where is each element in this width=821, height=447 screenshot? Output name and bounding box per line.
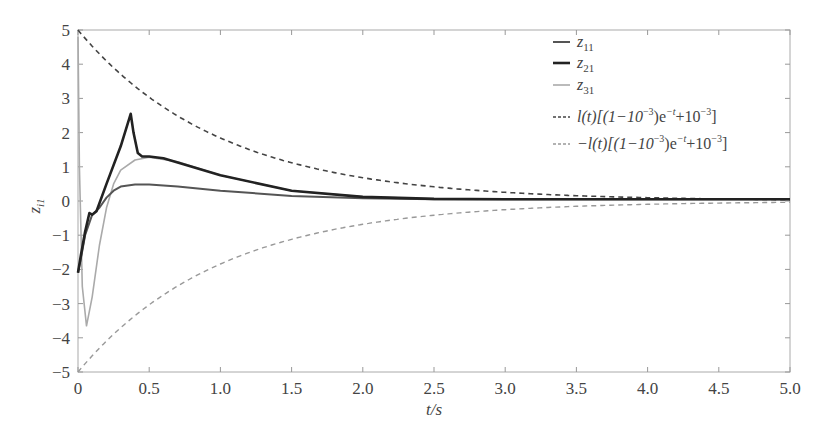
series-line-2 [78, 37, 790, 326]
chart: 00.51.01.52.02.53.03.54.04.55.0 543210−1… [0, 0, 821, 447]
y-tick-label: −1 [52, 226, 70, 245]
y-tick-label: 5 [62, 21, 71, 40]
x-tick-label: 0.5 [139, 379, 160, 398]
x-tick-label: 3.0 [495, 379, 516, 398]
x-tick-label: 5.0 [779, 379, 800, 398]
legend-label: l(t)[(1−10−3)e−t+10−3] [577, 106, 717, 126]
plot-frame [78, 30, 790, 372]
y-tick-label: 2 [62, 124, 71, 143]
y-tick-label: −4 [52, 329, 71, 348]
series-layer [78, 30, 790, 372]
svg-text:zi1: zi1 [25, 198, 46, 214]
x-tick-label: 2.5 [423, 379, 444, 398]
x-tick-label: 1.5 [281, 379, 302, 398]
x-tick-label: 2.0 [352, 379, 373, 398]
legend: z11z21z31l(t)[(1−10−3)e−t+10−3]−l(t)[(1−… [553, 33, 727, 153]
y-axis-ticks: 543210−1−2−3−4−5 [52, 21, 790, 382]
legend-label: z31 [576, 76, 594, 96]
legend-label: −l(t)[(1−10−3)e−t+10−3] [577, 133, 727, 153]
x-tick-label: 4.5 [708, 379, 729, 398]
y-axis-title: zi1 [25, 198, 46, 214]
x-axis-ticks: 00.51.01.52.02.53.03.54.04.55.0 [74, 30, 801, 398]
x-tick-label: 1.0 [210, 379, 231, 398]
y-tick-label: 1 [62, 158, 71, 177]
legend-label: z11 [576, 33, 594, 53]
y-tick-label: 0 [62, 192, 71, 211]
legend-label: z21 [576, 54, 594, 74]
y-tick-label: −5 [52, 363, 70, 382]
y-tick-label: −2 [52, 260, 70, 279]
x-axis-title: t/s [426, 400, 442, 419]
series-line-4 [78, 202, 790, 372]
y-tick-label: 4 [62, 55, 71, 74]
x-tick-label: 4.0 [637, 379, 658, 398]
y-tick-label: −3 [52, 295, 70, 314]
x-tick-label: 0 [74, 379, 83, 398]
y-tick-label: 3 [62, 89, 71, 108]
x-tick-label: 3.5 [566, 379, 587, 398]
